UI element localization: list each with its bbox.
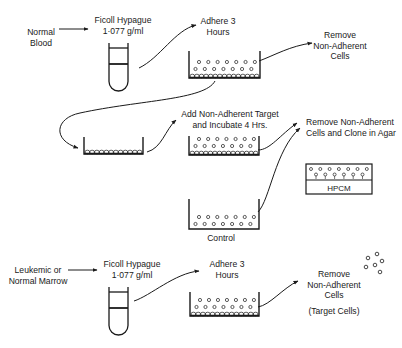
suspended-cell: [240, 305, 243, 308]
suspended-cell: [221, 144, 224, 147]
suspended-cell: [225, 298, 228, 301]
suspended-cell: [203, 144, 206, 147]
suspended-cell: [213, 305, 216, 308]
tube-outline: [109, 287, 128, 335]
ficoll-tube-bottom: [109, 287, 128, 335]
suspended-cell: [244, 60, 247, 63]
label-adhere-top: Adhere 3 Hours: [196, 16, 240, 37]
suspended-cell: [249, 305, 252, 308]
suspended-cell: [216, 215, 219, 218]
suspended-cell: [234, 215, 237, 218]
colony-cell: [356, 168, 359, 171]
suspended-cell: [204, 305, 207, 308]
suspended-cell: [221, 222, 224, 225]
arrow-dish-to-remove-bottom: [258, 281, 298, 307]
target-cell: [364, 265, 368, 269]
suspended-cell: [243, 215, 246, 218]
suspended-cell: [249, 222, 252, 225]
suspended-cell: [225, 215, 228, 218]
suspended-cell: [198, 298, 201, 301]
suspended-cell: [230, 222, 233, 225]
label-target-cells: (Target Cells): [306, 306, 362, 317]
suspended-cell: [207, 215, 210, 218]
suspended-cell: [194, 222, 197, 225]
colony-cell: [324, 173, 327, 176]
suspended-cell: [203, 67, 206, 70]
suspended-cell: [197, 60, 200, 63]
suspended-cell: [197, 137, 200, 140]
suspended-cell: [207, 298, 210, 301]
label-hpcm: HPCM: [308, 184, 370, 195]
label-adhere-bottom: Adhere 3 Hours: [205, 259, 249, 280]
suspended-cell: [194, 67, 197, 70]
label-remove-clone: Remove Non-Adherent Cells and Clone in A…: [306, 117, 402, 138]
colony-cell: [365, 168, 368, 171]
suspended-cell: [222, 305, 225, 308]
label-add-target: Add Non-Adherent Target and Incubate 4 H…: [172, 109, 288, 130]
suspended-cell: [213, 67, 216, 70]
suspended-cell: [243, 137, 246, 140]
suspended-cell: [195, 305, 198, 308]
adhere-dish-top: [189, 51, 260, 78]
tube-outline: [109, 43, 128, 91]
colony-cell: [352, 173, 355, 176]
label-ficoll-top: Ficoll Hypague 1·077 g/ml: [88, 15, 158, 36]
ficoll-tube-top: [109, 43, 128, 91]
suspended-cell: [243, 298, 246, 301]
colony-cell: [361, 173, 364, 176]
colony-cell: [337, 168, 340, 171]
colony-cell: [319, 168, 322, 171]
colony-cell: [333, 173, 336, 176]
suspended-cell: [216, 298, 219, 301]
suspended-cell: [250, 67, 253, 70]
target-cell: [375, 252, 379, 256]
suspended-cell: [230, 144, 233, 147]
adherent-dish: [84, 137, 143, 154]
target-cell: [378, 270, 382, 274]
suspended-cell: [252, 137, 255, 140]
suspended-cell: [249, 144, 252, 147]
suspended-cell: [225, 60, 228, 63]
incubate-dish: [189, 136, 259, 155]
suspended-cell: [252, 215, 255, 218]
target-cell: [380, 259, 384, 263]
suspended-cell: [252, 298, 255, 301]
label-leukemic-marrow: Leukemic or Normal Marrow: [8, 265, 68, 286]
suspended-cell: [216, 60, 219, 63]
suspended-cell: [231, 67, 234, 70]
colony-cell: [328, 168, 331, 171]
suspended-cell: [231, 305, 234, 308]
suspended-cell: [253, 60, 256, 63]
suspended-cell: [234, 137, 237, 140]
suspended-cell: [212, 144, 215, 147]
suspended-cell: [197, 215, 200, 218]
suspended-cell: [234, 298, 237, 301]
dish-outline: [190, 292, 259, 316]
target-cell: [373, 263, 377, 267]
adhere-dish-bottom: [190, 292, 259, 316]
suspended-cell: [225, 137, 228, 140]
colony-cell: [310, 168, 313, 171]
label-normal-blood: Normal Blood: [24, 27, 58, 48]
suspended-cell: [212, 222, 215, 225]
label-remove-top: Remove Non-Adherent Cells: [310, 30, 370, 62]
suspended-cell: [240, 67, 243, 70]
colony-cell: [315, 173, 318, 176]
suspended-cell: [194, 144, 197, 147]
colony-cell: [342, 173, 345, 176]
suspended-cell: [203, 222, 206, 225]
arrow-dish-to-remove: [259, 43, 312, 61]
suspended-cell: [207, 60, 210, 63]
arrow-control-to-clone: [258, 128, 300, 212]
suspended-cell: [222, 67, 225, 70]
label-remove-bottom: Remove Non-Adherent Cells: [304, 269, 364, 301]
target-cell: [366, 256, 370, 260]
label-ficoll-bottom: Ficoll Hypague 1·077 g/ml: [97, 259, 167, 280]
suspended-cell: [207, 137, 210, 140]
suspended-cell: [235, 60, 238, 63]
suspended-cell: [216, 137, 219, 140]
colony-cell: [347, 168, 350, 171]
suspended-cell: [240, 144, 243, 147]
suspended-cell: [240, 222, 243, 225]
control-dish: [189, 199, 259, 229]
